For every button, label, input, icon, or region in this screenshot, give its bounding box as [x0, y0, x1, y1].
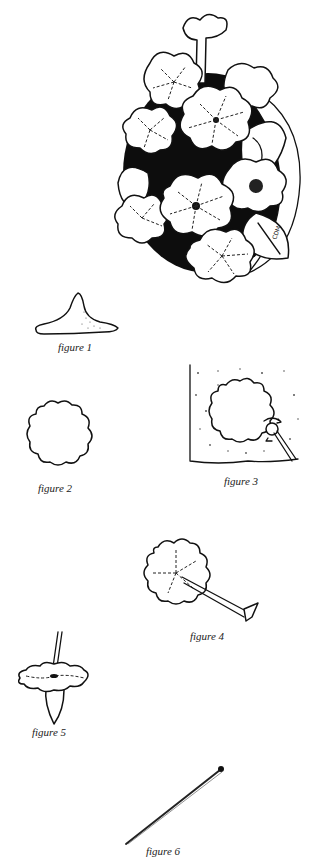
flower-on-cone-icon [14, 632, 90, 727]
figure-6-pin [120, 762, 230, 847]
figure-5-caption: figure 5 [32, 726, 66, 738]
cutting-tool-diagram-icon [188, 365, 308, 470]
cone-shape-icon [34, 290, 120, 340]
figure-5-assembly [14, 632, 90, 727]
figure-3-cutting [188, 365, 308, 470]
figure-3-caption: figure 3 [224, 475, 258, 487]
figure-6-caption: figure 6 [146, 845, 180, 857]
figure-4-marking [138, 535, 268, 630]
figure-1-cone [34, 290, 120, 340]
scalloped-flower-icon [24, 398, 96, 468]
figure-2-caption: figure 2 [38, 482, 72, 494]
figure-1-caption: figure 1 [58, 341, 92, 353]
figure-2-petal-shape [24, 398, 96, 468]
pin-tool-icon [120, 762, 230, 847]
figure-4-caption: figure 4 [190, 630, 224, 642]
main-flower-illustration: CDM [108, 8, 308, 288]
flower-bouquet-icon: CDM [108, 8, 308, 288]
marked-flower-with-tool-icon [138, 535, 268, 630]
